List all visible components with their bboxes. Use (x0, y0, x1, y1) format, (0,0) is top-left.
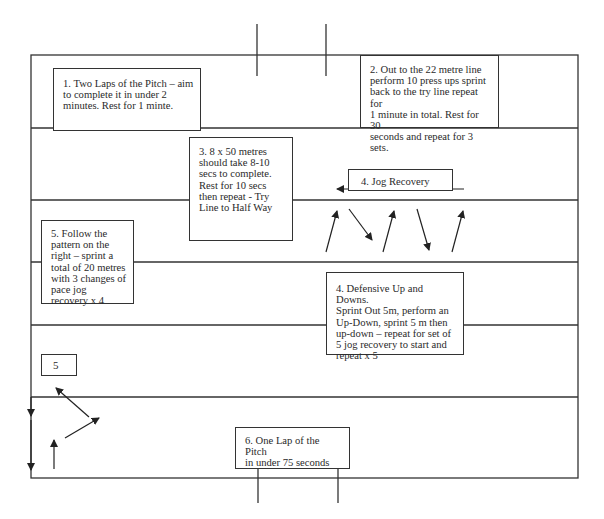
station-6-text: 6. One Lap of the Pitch in under 75 seco… (245, 435, 343, 469)
station-3-text: 3. 8 x 50 metres should take 8-10 secs t… (199, 146, 286, 213)
station-1-box: 1. Two Laps of the Pitch – aim to comple… (53, 68, 201, 131)
station-5-marker-box: 5 (41, 354, 77, 376)
pitch-diagram: 1. Two Laps of the Pitch – aim to comple… (0, 0, 604, 519)
station-1-text: 1. Two Laps of the Pitch – aim to comple… (63, 78, 194, 112)
defensive-up-downs-text: 4. Defensive Up and Downs. Sprint Out 5m… (336, 283, 457, 361)
jog-recovery-box: 4. Jog Recovery (348, 169, 453, 191)
station-5-text: 5. Follow the pattern on the right – spr… (51, 228, 128, 306)
up-left-arrow-icon (56, 388, 89, 417)
zigzag-arrow-4-icon (417, 209, 429, 250)
station-5-box: 5. Follow the pattern on the right – spr… (41, 220, 134, 304)
station-2-text: 2. Out to the 22 metre line perform 10 p… (370, 64, 492, 154)
station-2-box: 2. Out to the 22 metre line perform 10 p… (360, 55, 499, 128)
zigzag-arrow-5-icon (452, 211, 463, 252)
station-5-marker-text: 5 (53, 360, 76, 371)
station-3-box: 3. 8 x 50 metres should take 8-10 secs t… (189, 137, 293, 241)
zigzag-arrow-1-icon (326, 211, 337, 252)
jog-recovery-text: 4. Jog Recovery (361, 176, 446, 187)
zigzag-arrow-2-icon (349, 209, 372, 240)
up-right-arrow-icon (65, 418, 99, 438)
zigzag-arrow-3-icon (383, 211, 394, 252)
defensive-up-downs-box: 4. Defensive Up and Downs. Sprint Out 5m… (326, 272, 464, 355)
station-6-box: 6. One Lap of the Pitch in under 75 seco… (235, 427, 350, 469)
